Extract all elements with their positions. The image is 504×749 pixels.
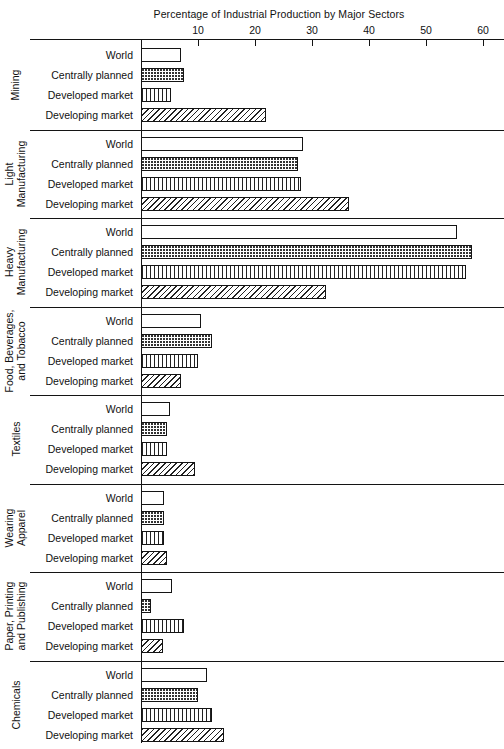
sector-label-text: Paper, Printingand Publishing [3, 582, 27, 651]
bar-row: World [30, 45, 504, 65]
bar [141, 491, 164, 505]
bar-row: World [30, 134, 504, 154]
sector-section: Paper, Printingand PublishingWorldCentra… [0, 572, 504, 661]
bar-row: Developed market [30, 174, 504, 194]
bar-row: Developing market [30, 636, 504, 656]
bar-rows: WorldCentrally plannedDeveloped marketDe… [30, 41, 504, 130]
bar [141, 531, 164, 545]
bar [141, 462, 195, 476]
bar-rows: WorldCentrally plannedDeveloped marketDe… [30, 218, 504, 307]
bar-row-label: Developed market [30, 351, 137, 371]
bar-row-label: Centrally planned [30, 65, 137, 85]
bar-row: Centrally planned [30, 331, 504, 351]
x-tick-label: 10 [192, 24, 204, 36]
sector-label: Food, Beverages,and Tobacco [0, 307, 30, 396]
sector-label: HeavyManufacturing [0, 218, 30, 307]
bar-row: Centrally planned [30, 685, 504, 705]
bar-row: World [30, 576, 504, 596]
bar-row: Centrally planned [30, 242, 504, 262]
bar-row: Developing market [30, 725, 504, 745]
bar-row: World [30, 665, 504, 685]
sector-section: HeavyManufacturingWorldCentrally planned… [0, 218, 504, 307]
bar-row-label: Centrally planned [30, 331, 137, 351]
bar-row-label: Developing market [30, 725, 137, 745]
x-tick-label: 50 [420, 24, 432, 36]
x-axis-line [30, 39, 504, 40]
sector-label: Paper, Printingand Publishing [0, 572, 30, 661]
bar [141, 354, 198, 368]
bar-rows: WorldCentrally plannedDeveloped marketDe… [30, 130, 504, 219]
bar-row-label: Developed market [30, 85, 137, 105]
bar-row-label: World [30, 576, 137, 596]
bar-row: Developed market [30, 85, 504, 105]
bar-row: World [30, 222, 504, 242]
bar-row-label: Developed market [30, 705, 137, 725]
bar-row: Centrally planned [30, 154, 504, 174]
bar [141, 68, 184, 82]
bar-row-label: World [30, 222, 137, 242]
bar-row-label: Centrally planned [30, 685, 137, 705]
bar [141, 668, 207, 682]
bar-row: Developed market [30, 528, 504, 548]
bar-rows: WorldCentrally plannedDeveloped marketDe… [30, 572, 504, 661]
bar-row-label: World [30, 488, 137, 508]
sector-label-text: Food, Beverages,and Tobacco [3, 309, 27, 392]
sector-label: WearingApparel [0, 484, 30, 573]
bar-row-label: World [30, 134, 137, 154]
sector-section: TextilesWorldCentrally plannedDeveloped … [0, 395, 504, 484]
bar-row: Developing market [30, 371, 504, 391]
sector-label: Mining [0, 41, 30, 130]
bar [141, 177, 301, 191]
bar-row-label: World [30, 45, 137, 65]
x-tick-label: 20 [249, 24, 261, 36]
sector-section: WearingApparelWorldCentrally plannedDeve… [0, 484, 504, 573]
bar-rows: WorldCentrally plannedDeveloped marketDe… [30, 395, 504, 484]
industrial-production-chart: Percentage of Industrial Production by M… [0, 0, 504, 749]
bar-row-label: Developing market [30, 371, 137, 391]
x-tick-label: 40 [363, 24, 375, 36]
bar-row-label: Developing market [30, 459, 137, 479]
bar [141, 245, 472, 259]
bar-row-label: Developed market [30, 528, 137, 548]
bar [141, 422, 167, 436]
bar [141, 108, 266, 122]
bar-row: Developed market [30, 262, 504, 282]
bar [141, 137, 303, 151]
sector-label-text: WearingApparel [3, 508, 27, 547]
bar-row-label: Developing market [30, 636, 137, 656]
bar-row-label: Developed market [30, 174, 137, 194]
sector-label-text: HeavyManufacturing [3, 229, 27, 296]
x-tick-label: 30 [306, 24, 318, 36]
bar-row: Developing market [30, 105, 504, 125]
bar [141, 442, 167, 456]
bar [141, 265, 466, 279]
sector-section: MiningWorldCentrally plannedDeveloped ma… [0, 41, 504, 130]
sector-section: ChemicalsWorldCentrally plannedDeveloped… [0, 661, 504, 749]
sector-label-text: Chemicals [9, 680, 21, 729]
bar-row: Developing market [30, 459, 504, 479]
bar-row-label: Developing market [30, 105, 137, 125]
bar [141, 48, 181, 62]
bar-row: Centrally planned [30, 508, 504, 528]
bar [141, 314, 201, 328]
sector-label: LightManufacturing [0, 130, 30, 219]
sector-section: Food, Beverages,and TobaccoWorldCentrall… [0, 307, 504, 396]
bar-row: Developing market [30, 194, 504, 214]
bar [141, 688, 198, 702]
bar [141, 551, 167, 565]
bar [141, 599, 151, 613]
bar [141, 619, 184, 633]
bar [141, 285, 326, 299]
sector-section: LightManufacturingWorldCentrally planned… [0, 130, 504, 219]
bar-row-label: Developed market [30, 439, 137, 459]
bar-row-label: Centrally planned [30, 596, 137, 616]
bar [141, 157, 298, 171]
bar-row: Developed market [30, 439, 504, 459]
bar-row-label: Centrally planned [30, 154, 137, 174]
bar-row: Developed market [30, 351, 504, 371]
bar [141, 374, 181, 388]
bar [141, 708, 212, 722]
bar-rows: WorldCentrally plannedDeveloped marketDe… [30, 661, 504, 749]
bar-row: Developed market [30, 616, 504, 636]
sector-label-text: Textiles [9, 422, 21, 457]
